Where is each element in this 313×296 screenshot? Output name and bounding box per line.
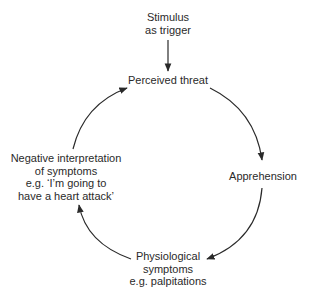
symptoms-line: symptoms [113, 263, 223, 276]
interpretation-line: of symptoms [1, 165, 131, 178]
apprehension-label: Apprehension [223, 170, 303, 183]
apprehension-node: Apprehension [223, 170, 303, 183]
trigger-line: Stimulus [118, 11, 218, 24]
perceived-threat-label: Perceived threat [108, 74, 228, 87]
interpretation-line: have a heart attack’ [1, 190, 131, 203]
physiological-symptoms-node: Physiological symptoms e.g. palpitations [113, 250, 223, 288]
trigger-node: Stimulus as trigger [118, 11, 218, 36]
interpretation-line: e.g. ‘I’m going to [1, 177, 131, 190]
symptoms-line: Physiological [113, 250, 223, 263]
negative-interpretation-node: Negative interpretation of symptoms e.g.… [1, 152, 131, 202]
trigger-line: as trigger [118, 24, 218, 37]
symptoms-line: e.g. palpitations [113, 275, 223, 288]
perceived-threat-node: Perceived threat [108, 74, 228, 87]
arrow-apprehension-to-symptoms [207, 188, 262, 259]
interpretation-line: Negative interpretation [1, 152, 131, 165]
arrow-threat-to-apprehension [210, 88, 262, 160]
arrow-interpretation-to-threat [73, 88, 127, 149]
panic-cycle-diagram: Stimulus as trigger Perceived threat App… [0, 0, 313, 296]
